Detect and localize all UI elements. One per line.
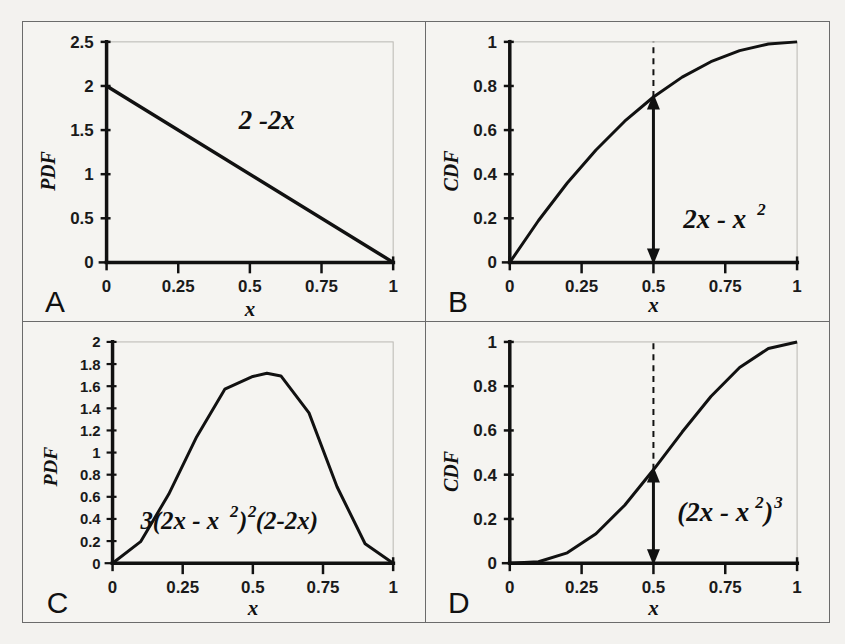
x-tick-labels: 0 0.25 0.5 0.75 1 [108, 578, 398, 597]
formula-mid: ) [237, 507, 247, 535]
formula-label: (2x - x 2 ) 3 [677, 493, 783, 527]
data-curve [113, 373, 394, 563]
y-axis-title: PDF [39, 447, 61, 488]
formula-superscript-2: 3 [773, 493, 783, 512]
y-tick-label: 1 [92, 444, 100, 461]
panel-d: 0 0.2 0.4 0.6 0.8 1 0 0.25 0 [426, 322, 829, 622]
x-axis-title: x [247, 596, 258, 620]
x-tick-marks [107, 256, 394, 273]
x-tick-label: 0.5 [238, 277, 262, 296]
x-axis-title: x [647, 596, 658, 620]
y-tick-label: 0.6 [473, 421, 497, 440]
formula-superscript: 2 [754, 493, 764, 512]
y-tick-label: 1.5 [70, 121, 94, 140]
y-tick-label: 0 [487, 253, 496, 272]
panel-a-plot: 0 0.5 1 1.5 2 2.5 0 0.25 [23, 22, 425, 321]
y-tick-label: 0.2 [80, 533, 101, 550]
x-tick-label: 0.75 [307, 578, 340, 597]
x-tick-label: 0 [505, 277, 514, 296]
formula-label: 2x - x 2 [682, 200, 766, 234]
panel-letter: A [45, 285, 65, 318]
x-axis-title: x [244, 297, 255, 321]
y-tick-label: 0 [84, 253, 93, 272]
figure-frame: 0 0.5 1 1.5 2 2.5 0 0.25 [22, 21, 830, 623]
y-tick-label: 1.6 [80, 378, 101, 395]
y-tick-labels: 0 0.2 0.4 0.6 0.8 1 1.2 1.4 1.6 1.8 2 [80, 333, 101, 571]
formula-tail: (2-2x) [256, 507, 318, 535]
y-tick-labels: 0 0.2 0.4 0.6 0.8 1 [473, 333, 497, 573]
panel-b-plot: 0 0.2 0.4 0.6 0.8 1 0 0.25 0 [426, 22, 829, 321]
x-tick-marks [113, 557, 394, 574]
figure-container: lower bound system in 0.2 0.4 0.6 0.8 an… [0, 0, 845, 644]
formula-base: 3(2x - x [139, 507, 219, 535]
formula-label: 2 -2x [238, 105, 295, 135]
y-tick-label: 1.2 [80, 422, 101, 439]
y-tick-marks [105, 342, 117, 563]
y-tick-label: 0.4 [473, 466, 497, 485]
formula-base: 2x - x [682, 204, 746, 234]
panel-c: 0 0.2 0.4 0.6 0.8 1 1.2 1.4 1.6 1.8 2 [23, 322, 426, 622]
y-tick-label: 0.2 [473, 510, 497, 529]
y-tick-label: 1.4 [80, 400, 101, 417]
x-axis-title: x [647, 293, 658, 317]
y-tick-label: 0.4 [473, 165, 497, 184]
y-axis-title: PDF [37, 151, 59, 192]
panel-b: 0 0.2 0.4 0.6 0.8 1 0 0.25 0 [426, 22, 829, 322]
y-tick-label: 1 [84, 165, 93, 184]
x-tick-label: 0.25 [162, 277, 195, 296]
formula-superscript: 2 [756, 200, 766, 219]
panel-d-plot: 0 0.2 0.4 0.6 0.8 1 0 0.25 0 [426, 322, 829, 622]
x-tick-labels: 0 0.25 0.5 0.75 1 [505, 578, 802, 597]
y-tick-label: 0.5 [70, 209, 94, 228]
panel-letter: C [47, 586, 69, 619]
panel-letter: D [448, 586, 470, 619]
y-tick-label: 2 [92, 333, 100, 350]
y-tick-label: 1.8 [80, 356, 101, 373]
y-tick-label: 0.8 [473, 377, 497, 396]
x-tick-label: 0.75 [709, 578, 742, 597]
x-tick-label: 1 [792, 578, 801, 597]
formula-label: 3(2x - x 2 ) 2 (2-2x) [139, 502, 318, 535]
x-tick-label: 0.75 [709, 277, 742, 296]
y-tick-marks [502, 42, 514, 263]
y-tick-label: 0 [487, 554, 496, 573]
x-tick-label: 1 [388, 578, 397, 597]
y-tick-label: 0.4 [80, 510, 101, 527]
y-tick-label: 1 [487, 333, 496, 352]
y-tick-marks [502, 342, 514, 563]
x-tick-labels: 0 0.25 0.5 0.75 1 [102, 277, 398, 296]
x-tick-label: 0 [102, 277, 111, 296]
x-tick-label: 1 [792, 277, 801, 296]
y-tick-labels: 0 0.5 1 1.5 2 2.5 [70, 33, 94, 273]
y-tick-label: 0.8 [473, 77, 497, 96]
x-tick-label: 0 [505, 578, 514, 597]
panel-a: 0 0.5 1 1.5 2 2.5 0 0.25 [23, 22, 426, 322]
x-tick-label: 0.75 [305, 277, 338, 296]
x-tick-label: 0.5 [642, 578, 666, 597]
y-tick-label: 0.2 [473, 209, 497, 228]
plot-area-border [107, 42, 394, 263]
y-tick-label: 1 [487, 33, 496, 52]
x-tick-label: 1 [388, 277, 397, 296]
panel-letter: B [448, 285, 468, 318]
x-tick-label: 0.5 [241, 578, 264, 597]
x-tick-label: 0.25 [565, 578, 598, 597]
formula-base: (2x - x [677, 497, 749, 527]
y-tick-label: 0.6 [473, 121, 497, 140]
y-axis-title: CDF [440, 151, 462, 192]
y-axis-title: CDF [440, 451, 462, 492]
x-tick-label: 0 [108, 578, 117, 597]
panel-c-plot: 0 0.2 0.4 0.6 0.8 1 1.2 1.4 1.6 1.8 2 [23, 322, 425, 622]
y-tick-label: 2.5 [70, 33, 94, 52]
y-tick-label: 2 [84, 77, 93, 96]
y-tick-marks [99, 42, 111, 263]
y-tick-label: 0 [92, 555, 100, 572]
x-tick-label: 0.25 [166, 578, 199, 597]
formula-superscript: 2 [229, 502, 239, 521]
x-tick-label: 0.25 [565, 277, 598, 296]
y-tick-label: 0.8 [80, 466, 101, 483]
y-tick-label: 0.6 [80, 488, 101, 505]
y-tick-labels: 0 0.2 0.4 0.6 0.8 1 [473, 33, 497, 272]
